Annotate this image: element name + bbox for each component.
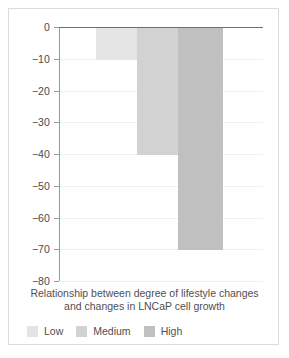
y-tick-label: −30 (9, 117, 50, 128)
bar-series (59, 28, 263, 282)
caption-line-1: Relationship between degree of lifestyle… (19, 287, 270, 300)
legend-label-medium: Medium (93, 326, 130, 337)
y-tick-label: −80 (9, 276, 50, 287)
legend-item-medium: Medium (76, 326, 130, 337)
y-tick-label: −10 (9, 54, 50, 65)
y-tick-label: −60 (9, 213, 50, 224)
chart-figure-frame: 0−10−20−30−40−50−60−70−80 Relationship b… (8, 8, 279, 345)
y-tick-label: 0 (9, 22, 50, 33)
y-tick-label: −70 (9, 244, 50, 255)
y-tick-label: −50 (9, 181, 50, 192)
y-tick-label: −20 (9, 86, 50, 97)
plot-area: 0−10−20−30−40−50−60−70−80 (9, 9, 280, 284)
chart-legend: Low Medium High (27, 326, 195, 337)
caption-line-2: and changes in LNCaP cell growth (19, 300, 270, 313)
legend-label-high: High (161, 326, 183, 337)
bar-medium (137, 28, 178, 155)
bar-high (178, 28, 223, 250)
bar-low (96, 28, 137, 60)
legend-item-low: Low (27, 326, 63, 337)
legend-label-low: Low (44, 326, 63, 337)
legend-item-high: High (144, 326, 183, 337)
y-tick-label: −40 (9, 149, 50, 160)
legend-swatch-medium (76, 326, 87, 337)
legend-swatch-high (144, 326, 155, 337)
legend-swatch-low (27, 326, 38, 337)
chart-caption: Relationship between degree of lifestyle… (19, 287, 270, 313)
